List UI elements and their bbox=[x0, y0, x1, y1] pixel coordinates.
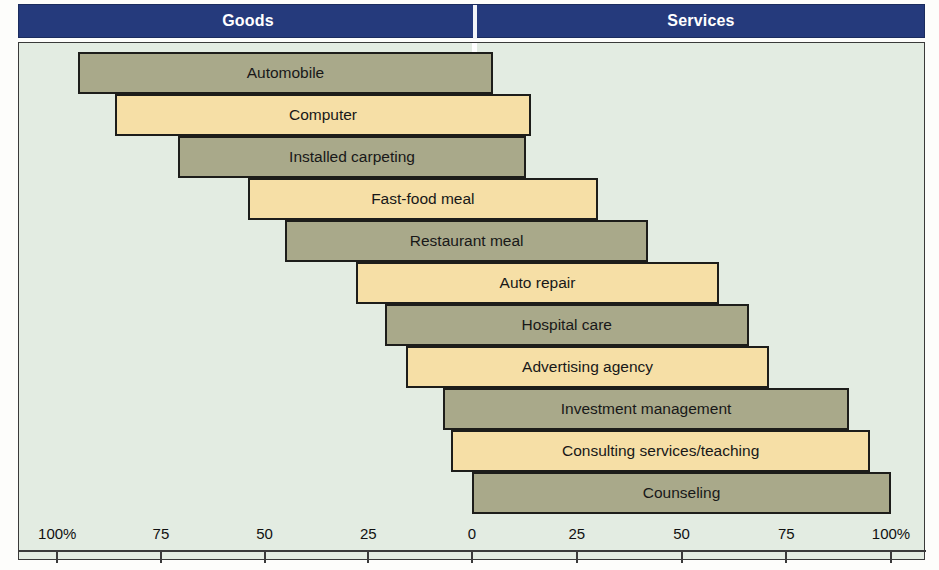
axis-tick-label: 75 bbox=[153, 525, 170, 542]
axis-tick-label: 25 bbox=[360, 525, 377, 542]
axis-tick-label: 75 bbox=[778, 525, 795, 542]
axis-tick-label: 100% bbox=[872, 525, 910, 542]
x-axis: 100%7550250255075100% bbox=[19, 517, 926, 561]
bar-label: Hospital care bbox=[521, 316, 611, 334]
bar-consulting-services-teaching: Consulting services/teaching bbox=[451, 430, 870, 472]
bar-label: Computer bbox=[289, 106, 357, 124]
bar-installed-carpeting: Installed carpeting bbox=[178, 136, 527, 178]
axis-tick-label: 50 bbox=[673, 525, 690, 542]
bar-label: Consulting services/teaching bbox=[562, 442, 759, 460]
axis-tick bbox=[681, 552, 683, 563]
axis-tick-label: 0 bbox=[468, 525, 476, 542]
bar-auto-repair: Auto repair bbox=[356, 262, 719, 304]
axis-tick bbox=[785, 552, 787, 563]
axis-tick bbox=[367, 552, 369, 563]
bar-restaurant-meal: Restaurant meal bbox=[285, 220, 648, 262]
bar-hospital-care: Hospital care bbox=[385, 304, 749, 346]
axis-tick-label: 25 bbox=[568, 525, 585, 542]
axis-tick bbox=[160, 552, 162, 563]
bar-label: Automobile bbox=[247, 64, 325, 82]
bar-label: Auto repair bbox=[500, 274, 576, 292]
bars-layer: AutomobileComputerInstalled carpetingFas… bbox=[19, 43, 926, 561]
bar-investment-management: Investment management bbox=[443, 388, 849, 430]
bar-label: Fast-food meal bbox=[371, 190, 474, 208]
axis-tick bbox=[471, 552, 473, 563]
header-label-goods: Goods bbox=[222, 12, 274, 30]
header-divider bbox=[473, 5, 477, 39]
axis-tick bbox=[56, 552, 58, 563]
bar-label: Installed carpeting bbox=[289, 148, 415, 166]
goods-services-continuum-figure: Goods Services AutomobileComputerInstall… bbox=[0, 0, 939, 570]
bar-computer: Computer bbox=[115, 94, 530, 136]
bar-advertising-agency: Advertising agency bbox=[406, 346, 770, 388]
bar-label: Advertising agency bbox=[522, 358, 653, 376]
axis-tick bbox=[264, 552, 266, 563]
plot-area: AutomobileComputerInstalled carpetingFas… bbox=[18, 42, 925, 560]
bar-label: Investment management bbox=[561, 400, 732, 418]
chart-header-band: Goods Services bbox=[18, 4, 925, 38]
bar-counseling: Counseling bbox=[472, 472, 891, 514]
axis-tick bbox=[576, 552, 578, 563]
bar-label: Restaurant meal bbox=[410, 232, 524, 250]
axis-tick-label: 50 bbox=[256, 525, 273, 542]
bar-fast-food-meal: Fast-food meal bbox=[248, 178, 598, 220]
axis-tick bbox=[890, 552, 892, 563]
bar-label: Counseling bbox=[643, 484, 721, 502]
axis-tick-label: 100% bbox=[38, 525, 76, 542]
header-label-services: Services bbox=[667, 12, 734, 30]
bar-automobile: Automobile bbox=[78, 52, 493, 94]
